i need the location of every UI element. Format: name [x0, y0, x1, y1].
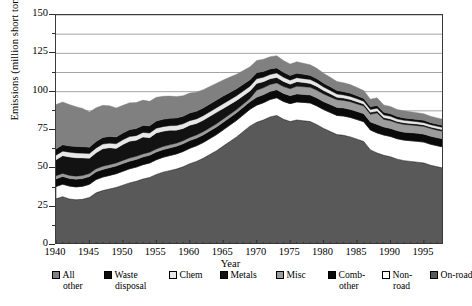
legend-item[interactable]: Wastedisposal	[104, 270, 146, 291]
y-axis-tick-label: 125	[8, 45, 48, 56]
legend-label-line2: disposal	[104, 281, 146, 292]
y-axis-tick-label: 25	[8, 199, 48, 210]
legend-label-line1: All	[63, 269, 75, 280]
legend-label-line1: Waste	[115, 269, 138, 280]
legend-swatch	[328, 271, 336, 279]
legend-item[interactable]: Non-road	[382, 270, 412, 291]
legend-label-line1: Comb-	[339, 269, 366, 280]
legend-swatch	[220, 271, 228, 279]
y-axis-tick	[49, 244, 55, 245]
legend-swatch	[52, 271, 60, 279]
y-axis-tick-label: 50	[8, 160, 48, 171]
legend-item[interactable]: Allother	[52, 270, 83, 291]
legend-item[interactable]: Misc	[276, 270, 306, 281]
legend-label-line1: Metals	[231, 269, 257, 280]
x-axis-tick-label: 1995	[401, 246, 445, 257]
legend-swatch	[169, 271, 177, 279]
legend-swatch	[276, 271, 284, 279]
plot-area	[55, 14, 443, 244]
legend-label-line1: On-road	[441, 269, 472, 280]
legend-label-line2: road	[382, 281, 412, 292]
y-axis-tick-label: 75	[8, 122, 48, 133]
y-axis-tick-label: 150	[8, 7, 48, 18]
legend-swatch	[430, 271, 438, 279]
stacked-area-series-group	[56, 15, 443, 244]
legend-swatch	[104, 271, 112, 279]
y-axis-tick-label: 100	[8, 84, 48, 95]
x-axis-title: Year	[0, 258, 461, 269]
chart-legend: AllotherWastedisposalChemMetalsMiscComb-…	[52, 270, 452, 302]
legend-item[interactable]: Chem	[169, 270, 202, 281]
legend-label-line1: Chem	[180, 269, 203, 280]
legend-swatch	[382, 271, 390, 279]
series-areas	[56, 56, 443, 244]
legend-label-line1: Misc	[287, 269, 306, 280]
legend-item[interactable]: Metals	[220, 270, 257, 281]
legend-item[interactable]: On-road	[430, 270, 472, 281]
legend-label-line1: Non-	[393, 269, 413, 280]
legend-item[interactable]: Comb-other	[328, 270, 365, 291]
legend-label-line2: other	[328, 281, 365, 292]
legend-label-line2: other	[52, 281, 83, 292]
